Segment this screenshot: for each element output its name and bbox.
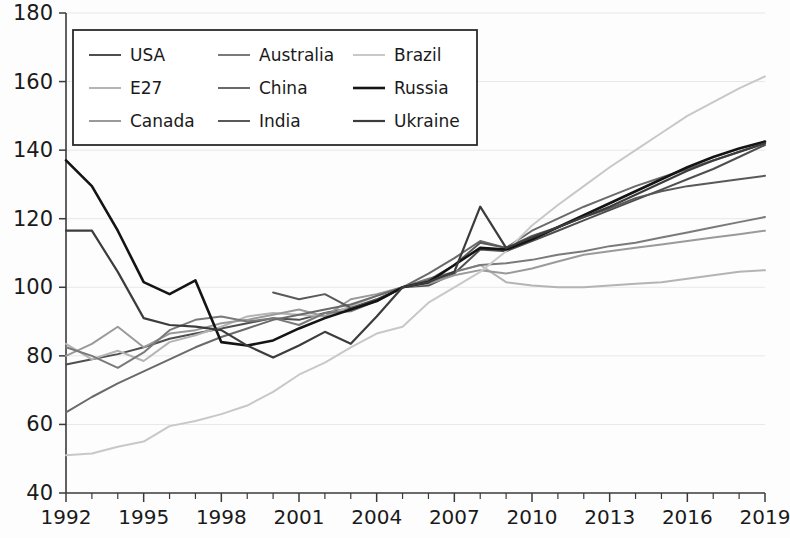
y-tick-label: 160	[13, 70, 53, 94]
y-axis-tick-labels: 180160140120100806040	[13, 1, 53, 505]
y-axis-ticks	[59, 13, 66, 493]
y-tick-label: 80	[26, 344, 53, 368]
y-tick-label: 100	[13, 275, 53, 299]
x-tick-label: 2001	[274, 505, 325, 529]
line-chart: 180160140120100806040 199219951998200120…	[0, 0, 790, 538]
y-tick-label: 60	[26, 412, 53, 436]
x-tick-label: 2013	[584, 505, 635, 529]
legend-label: Russia	[394, 78, 449, 98]
chart-container: 180160140120100806040 199219951998200120…	[0, 0, 790, 538]
x-axis-tick-labels: 1992199519982001200420072010201320162019	[41, 505, 790, 529]
x-tick-label: 2019	[740, 505, 790, 529]
x-tick-label: 2016	[662, 505, 713, 529]
series-line-ukraine	[66, 143, 765, 357]
y-tick-label: 180	[13, 1, 53, 25]
x-tick-label: 1995	[118, 505, 169, 529]
legend-label: India	[259, 111, 301, 131]
legend-label: Canada	[130, 111, 195, 131]
legend-label: China	[259, 78, 308, 98]
legend-label: Ukraine	[394, 111, 460, 131]
legend-label: Australia	[259, 45, 334, 65]
x-tick-label: 2004	[351, 505, 402, 529]
legend-label: Brazil	[394, 45, 441, 65]
y-tick-label: 140	[13, 138, 53, 162]
x-axis-ticks	[66, 493, 765, 502]
x-tick-label: 1992	[41, 505, 92, 529]
legend-label: E27	[130, 78, 162, 98]
x-tick-label: 1998	[196, 505, 247, 529]
chart-legend: USAAustraliaBrazilE27ChinaRussiaCanadaIn…	[73, 30, 477, 145]
legend-label: USA	[130, 45, 166, 65]
y-tick-label: 40	[26, 481, 53, 505]
x-tick-label: 2007	[429, 505, 480, 529]
y-tick-label: 120	[13, 207, 53, 231]
x-tick-label: 2010	[507, 505, 558, 529]
